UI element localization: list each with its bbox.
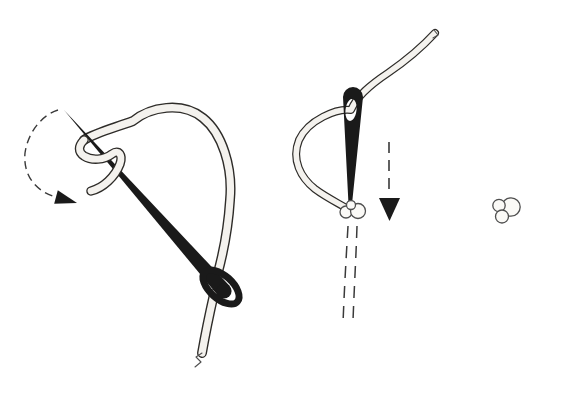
thread-big-loop (84, 108, 230, 276)
thread-tail (195, 294, 214, 367)
pull-down-arrow (379, 142, 400, 221)
panel-step3-finished-knot (493, 198, 520, 223)
thread-wrap (80, 140, 122, 191)
thread-big-loop-fill (84, 108, 230, 276)
thread-fill (296, 33, 435, 209)
rotation-arrow (25, 110, 77, 204)
illustration-page (0, 0, 572, 400)
pull-down-arrowhead-icon (379, 198, 400, 221)
guide-line-right (353, 226, 357, 321)
knot-lobe (496, 210, 509, 223)
guide-line-left (343, 226, 348, 324)
knot-lobe (347, 201, 356, 210)
pull-path-guides (343, 226, 357, 324)
knot-tying-diagram (0, 0, 572, 400)
rotation-arrowhead-icon (54, 190, 77, 204)
panel-step2-pull-through (296, 30, 438, 324)
thread-through-eye (296, 30, 438, 209)
panel-step1-wrap-thread (25, 108, 245, 367)
rotation-arc (25, 110, 58, 197)
